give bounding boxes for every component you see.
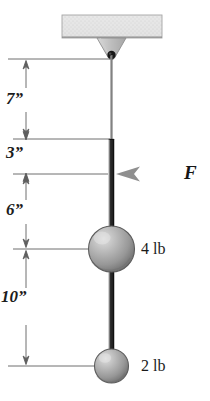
weight-sphere-2lb <box>95 349 129 383</box>
force-arrow <box>116 167 178 182</box>
weight-sphere-4lb <box>89 226 135 272</box>
force-label: F <box>184 162 197 184</box>
extension-lines <box>8 59 110 366</box>
weight-label-2lb: 2 lb <box>141 357 165 375</box>
dimension-label-3in: 3” <box>6 143 23 163</box>
physics-diagram: 7” 3” 6” 10” 4 lb 2 lb F <box>0 0 210 401</box>
diagram-canvas <box>0 0 210 401</box>
rod-upper-segment <box>111 55 112 139</box>
ceiling-support-block <box>62 15 162 38</box>
dimension-label-6in: 6” <box>6 200 23 220</box>
dimension-6in <box>23 176 29 248</box>
dimension-7in <box>23 61 29 138</box>
dimension-lines <box>23 61 29 365</box>
dimension-label-10in: 10” <box>1 287 27 307</box>
dimension-10in <box>23 251 29 365</box>
dimension-label-7in: 7” <box>6 89 23 109</box>
weight-label-4lb: 4 lb <box>141 240 165 258</box>
